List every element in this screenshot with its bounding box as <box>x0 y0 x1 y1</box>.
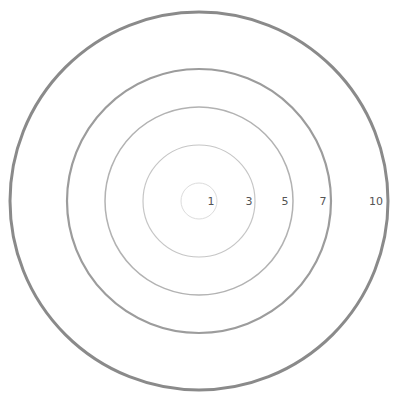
concentric-rings-diagram: 1 3 5 7 10 <box>0 0 396 395</box>
ring-5 <box>105 107 293 295</box>
ring-label-10: 10 <box>369 195 383 208</box>
labels-group: 1 3 5 7 10 <box>208 195 384 208</box>
ring-label-3: 3 <box>246 195 253 208</box>
ring-7 <box>67 69 331 333</box>
ring-label-5: 5 <box>282 195 289 208</box>
rings-group <box>10 12 388 390</box>
ring-3 <box>143 145 255 257</box>
ring-label-7: 7 <box>320 195 327 208</box>
ring-label-1: 1 <box>208 195 215 208</box>
